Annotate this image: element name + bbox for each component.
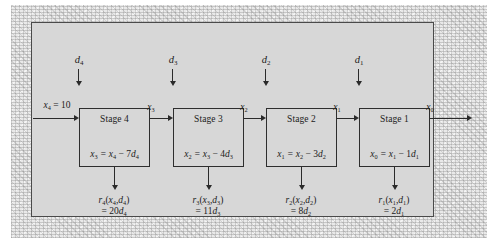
- stage-equation-4: x3 = x4 − 7d4: [80, 149, 149, 159]
- stage-box-4[interactable]: Stage 4 x3 = x4 − 7d4: [79, 108, 150, 167]
- state-label-x2: x2: [222, 102, 266, 112]
- state-label-x1: x1: [315, 102, 359, 112]
- diagram-panel: d4 d3 d2 d1 x4 = 10 Stage 4 x3 = x4 − 7d…: [31, 22, 434, 217]
- stage-title-4: Stage 4: [80, 114, 149, 124]
- stage-title-1: Stage 1: [360, 114, 429, 124]
- decision-label-stage-4: d4: [59, 54, 99, 65]
- stage-equation-2: x1 = x2 − 3d2: [267, 149, 336, 159]
- figure-root: d4 d3 d2 d1 x4 = 10 Stage 4 x3 = x4 − 7d…: [0, 0, 493, 243]
- output-state-label: x0: [408, 102, 452, 112]
- input-state-label: x4 = 10: [29, 100, 85, 110]
- reward-arrowhead-stage-3: [206, 185, 212, 190]
- stage-equation-3: x2 = x3 − 4d3: [174, 149, 243, 159]
- reward-label-stage-4: r4(x4,d4) = 20d4: [67, 195, 161, 217]
- reward-line-stage-2: [301, 167, 302, 186]
- reward-arrowhead-stage-1: [392, 185, 398, 190]
- state-arrow-line-x1: [337, 118, 355, 119]
- reward-line-stage-4: [114, 167, 115, 186]
- state-arrowhead-x2: [261, 115, 266, 121]
- reward-label-stage-2: r2(x2,d2) = 8d2: [254, 195, 348, 217]
- reward-label-stage-3: r3(x3,d3) = 11d3: [161, 195, 255, 217]
- reward-name-stage-2: r2(x2,d2): [286, 195, 317, 205]
- stage-box-3[interactable]: Stage 3 x2 = x3 − 4d3: [173, 108, 244, 167]
- output-arrowhead: [467, 115, 472, 121]
- reward-value-stage-1: = 2d1: [347, 206, 441, 217]
- decision-arrowhead-stage-3: [170, 81, 176, 86]
- state-arrow-line-x2: [244, 118, 262, 119]
- stage-box-2[interactable]: Stage 2 x1 = x2 − 3d2: [266, 108, 337, 167]
- output-arrow-line: [430, 118, 468, 119]
- reward-line-stage-1: [394, 167, 395, 186]
- decision-arrowhead-stage-1: [356, 81, 362, 86]
- input-arrow-line: [33, 118, 76, 119]
- stage-box-1[interactable]: Stage 1 x0 = x1 − 1d1: [359, 108, 430, 167]
- reward-value-stage-3: = 11d3: [161, 206, 255, 217]
- reward-value-stage-4: = 20d4: [67, 206, 161, 217]
- reward-line-stage-3: [208, 167, 209, 186]
- reward-arrowhead-stage-4: [112, 185, 118, 190]
- decision-label-stage-1: d1: [339, 54, 379, 65]
- reward-name-stage-1: r1(x1,d1): [379, 195, 410, 205]
- reward-name-stage-4: r4(x4,d4): [99, 195, 130, 205]
- reward-name-stage-3: r3(x3,d3): [193, 195, 224, 205]
- reward-arrowhead-stage-2: [299, 185, 305, 190]
- state-arrowhead-x1: [354, 115, 359, 121]
- decision-arrowhead-stage-2: [263, 81, 269, 86]
- state-arrowhead-x3: [168, 115, 173, 121]
- stage-title-2: Stage 2: [267, 114, 336, 124]
- decision-label-stage-2: d2: [246, 54, 286, 65]
- decision-arrowhead-stage-4: [76, 81, 82, 86]
- stage-title-3: Stage 3: [174, 114, 243, 124]
- state-label-x3: x3: [129, 102, 173, 112]
- stage-equation-1: x0 = x1 − 1d1: [360, 149, 429, 159]
- decision-label-stage-3: d3: [153, 54, 193, 65]
- reward-value-stage-2: = 8d2: [254, 206, 348, 217]
- reward-label-stage-1: r1(x1,d1) = 2d1: [347, 195, 441, 217]
- state-arrow-line-x3: [150, 118, 169, 119]
